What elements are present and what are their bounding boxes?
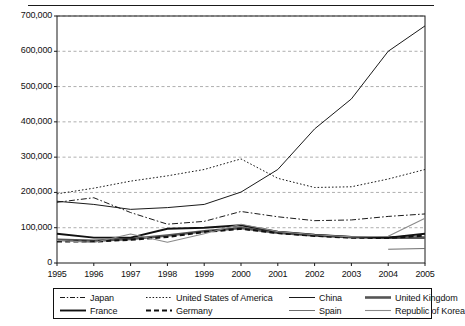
x-tick-label: 2005 — [408, 270, 442, 279]
legend-item-label: United States of America — [176, 293, 273, 303]
legend-item-label: Japan — [90, 293, 114, 303]
y-tick-label: 600,000 — [2, 46, 52, 55]
legend-item-japan[interactable]: Japan — [60, 293, 146, 303]
x-tick-label: 1996 — [77, 270, 111, 279]
legend-item-china[interactable]: China — [289, 293, 365, 303]
series-line-china — [57, 26, 425, 209]
legend-item-france[interactable]: France — [60, 306, 146, 316]
series-lines-group — [57, 26, 425, 249]
y-tick-label: 0 — [2, 258, 52, 267]
series-line-spain — [388, 249, 425, 250]
legend-item-label: China — [319, 293, 342, 303]
x-tick-label: 2000 — [224, 270, 258, 279]
legend-item-label: Germany — [176, 306, 212, 316]
legend-item-label: France — [90, 306, 117, 316]
y-tick-label: 700,000 — [2, 11, 52, 20]
x-tick-label: 2004 — [371, 270, 405, 279]
x-tick-label: 2002 — [298, 270, 332, 279]
legend-line-swatch — [365, 306, 391, 315]
legend-line-swatch — [60, 306, 86, 315]
y-tick-label: 200,000 — [2, 187, 52, 196]
legend-item-united-kingdom[interactable]: United Kingdom — [365, 293, 465, 303]
chart-legend: JapanUnited States of AmericaChinaUnited… — [53, 288, 432, 319]
legend-line-swatch — [289, 306, 315, 315]
legend-line-swatch — [365, 293, 391, 302]
legend-grid: JapanUnited States of AmericaChinaUnited… — [60, 291, 427, 317]
legend-line-swatch — [146, 293, 172, 302]
x-tick-label: 1999 — [187, 270, 221, 279]
legend-item-germany[interactable]: Germany — [146, 306, 289, 316]
x-tick-label: 2001 — [261, 270, 295, 279]
legend-line-swatch — [60, 293, 86, 302]
legend-item-label: United Kingdom — [395, 293, 458, 303]
y-tick-label: 500,000 — [2, 82, 52, 91]
legend-item-united-states-of-america[interactable]: United States of America — [146, 293, 289, 303]
y-tick-label: 300,000 — [2, 152, 52, 161]
legend-item-label: Republic of Korea — [395, 306, 465, 316]
x-tick-label: 1997 — [114, 270, 148, 279]
legend-item-spain[interactable]: Spain — [289, 306, 365, 316]
series-line-united-states-of-america — [57, 159, 425, 194]
series-line-japan — [57, 198, 425, 224]
x-tick-label: 1995 — [40, 270, 74, 279]
x-tick-label: 1998 — [150, 270, 184, 279]
legend-item-label: Spain — [319, 306, 342, 316]
legend-item-republic-of-korea[interactable]: Republic of Korea — [365, 306, 465, 316]
x-tick-label: 2003 — [334, 270, 368, 279]
legend-line-swatch — [289, 293, 315, 302]
y-tick-label: 100,000 — [2, 223, 52, 232]
y-tick-label: 400,000 — [2, 117, 52, 126]
gridlines-group — [57, 16, 425, 228]
legend-line-swatch — [146, 306, 172, 315]
